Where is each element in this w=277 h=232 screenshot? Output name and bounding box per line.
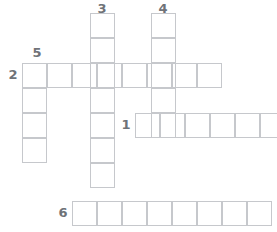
crossword-cell[interactable] (197, 63, 222, 88)
crossword-cell[interactable] (90, 13, 115, 38)
crossword-cell[interactable] (22, 138, 47, 163)
crossword-cell[interactable] (97, 201, 122, 226)
clue-number-1: 1 (118, 118, 134, 131)
crossword-cell[interactable] (185, 113, 210, 138)
crossword-cell[interactable] (90, 163, 115, 188)
crossword-cell[interactable] (72, 63, 97, 88)
crossword-puzzle: 345216 (0, 0, 277, 232)
clue-number-2: 2 (5, 68, 21, 81)
crossword-cell[interactable] (172, 201, 197, 226)
crossword-cell[interactable] (247, 201, 272, 226)
crossword-cell[interactable] (47, 63, 72, 88)
crossword-cell[interactable] (151, 88, 176, 113)
clue-number-3: 3 (94, 2, 110, 15)
crossword-cell[interactable] (210, 113, 235, 138)
clipped-title-text (0, 0, 277, 4)
crossword-cell[interactable] (151, 38, 176, 63)
crossword-cell[interactable] (260, 113, 277, 138)
crossword-cell[interactable] (72, 201, 97, 226)
clue-number-6: 6 (55, 206, 71, 219)
crossword-cell[interactable] (235, 113, 260, 138)
crossword-cell[interactable] (197, 201, 222, 226)
crossword-cell[interactable] (222, 201, 247, 226)
clue-number-4: 4 (155, 2, 171, 15)
crossword-cell[interactable] (172, 63, 197, 88)
crossword-cell[interactable] (90, 138, 115, 163)
crossword-cell[interactable] (22, 63, 47, 88)
crossword-cell[interactable] (90, 38, 115, 63)
crossword-cell[interactable] (147, 63, 172, 88)
crossword-cell[interactable] (22, 88, 47, 113)
crossword-cell[interactable] (90, 88, 115, 113)
crossword-cell[interactable] (160, 113, 185, 138)
crossword-cell[interactable] (22, 113, 47, 138)
crossword-cell[interactable] (147, 201, 172, 226)
crossword-cell[interactable] (135, 113, 160, 138)
crossword-cell[interactable] (90, 113, 115, 138)
clue-number-5: 5 (29, 46, 45, 59)
crossword-cell[interactable] (122, 201, 147, 226)
crossword-cell[interactable] (151, 13, 176, 38)
crossword-cell[interactable] (122, 63, 147, 88)
crossword-cell[interactable] (97, 63, 122, 88)
